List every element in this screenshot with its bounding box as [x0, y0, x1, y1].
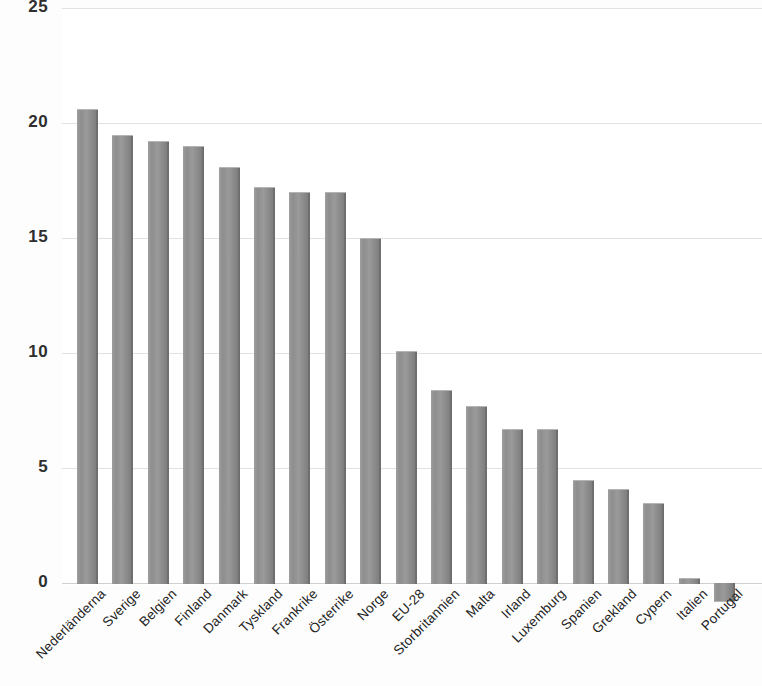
x-axis-tick-label: Belgien: [136, 586, 179, 629]
bar-group: [289, 8, 310, 586]
bar-group: [112, 8, 133, 586]
bars: [62, 8, 762, 586]
bar: [431, 390, 452, 584]
y-axis-tick-label: 10: [2, 342, 48, 362]
bar-group: [502, 8, 523, 586]
bar-group: [537, 8, 558, 586]
bar-group: [573, 8, 594, 586]
bar-group: [77, 8, 98, 586]
plot-area: [62, 8, 762, 586]
x-axis-tick-label-text: Malta: [463, 586, 498, 621]
bar-group: [643, 8, 664, 586]
bar: [502, 429, 523, 584]
x-axis-tick-label-text: Nederländerna: [33, 586, 109, 662]
bar: [289, 192, 310, 584]
bar-group: [466, 8, 487, 586]
bar: [643, 503, 664, 585]
x-axis-tick-label-text: Cypern: [633, 586, 675, 628]
bar-group: [714, 8, 735, 586]
bar-chart: 0510152025 NederländernaSverigeBelgienFi…: [0, 0, 762, 686]
bar-group: [608, 8, 629, 586]
bar: [219, 167, 240, 584]
x-axis-tick-label-text: Norge: [354, 586, 391, 623]
bar-group: [396, 8, 417, 586]
x-axis-tick-label: Malta: [463, 586, 498, 621]
y-axis-tick-label: 25: [2, 0, 48, 17]
x-axis-tick-label-text: Belgien: [136, 586, 179, 629]
bar-group: [254, 8, 275, 586]
bar-group: [360, 8, 381, 586]
x-axis-tick-label-text: Sverige: [100, 586, 144, 630]
bar: [466, 406, 487, 584]
y-axis-tick-label: 15: [2, 227, 48, 247]
x-axis: NederländernaSverigeBelgienFinlandDanmar…: [62, 586, 762, 686]
x-axis-tick-label: Nederländerna: [33, 586, 109, 662]
bar-group: [219, 8, 240, 586]
bar: [537, 429, 558, 584]
bar: [396, 351, 417, 584]
bar: [254, 187, 275, 584]
bar-group: [183, 8, 204, 586]
bar: [183, 146, 204, 584]
bar: [573, 480, 594, 585]
y-axis-tick-label: 0: [2, 572, 48, 592]
bar: [360, 238, 381, 584]
y-axis-tick-label: 5: [2, 457, 48, 477]
bar: [608, 489, 629, 584]
x-axis-tick-label: Sverige: [100, 586, 144, 630]
bar: [148, 141, 169, 584]
bar: [77, 109, 98, 584]
x-axis-tick-label: Norge: [354, 586, 391, 623]
bar: [679, 578, 700, 584]
bar: [325, 192, 346, 584]
x-axis-tick-label: Cypern: [633, 586, 675, 628]
y-axis-tick-label: 20: [2, 112, 48, 132]
bar-group: [679, 8, 700, 586]
bar: [112, 135, 133, 585]
bar-group: [148, 8, 169, 586]
bar-group: [325, 8, 346, 586]
bar-group: [431, 8, 452, 586]
